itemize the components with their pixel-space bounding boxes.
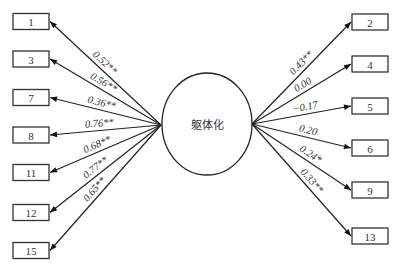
item-node-15: 15: [13, 243, 49, 259]
item-node-1: 1: [13, 14, 49, 30]
path-arrow-1: [50, 22, 161, 126]
item-node-9: 9: [352, 182, 388, 198]
item-node-3: 3: [13, 51, 49, 67]
item-label: 7: [28, 92, 34, 104]
item-label: 15: [26, 245, 38, 257]
item-node-13: 13: [352, 228, 388, 244]
path-coefficient-4: 0.00: [292, 75, 314, 94]
latent-label: 躯体化: [191, 118, 224, 132]
item-label: 13: [365, 231, 377, 243]
item-label: 5: [367, 101, 373, 113]
path-coefficient-9: 0.24*: [298, 143, 324, 166]
item-node-6: 6: [352, 140, 388, 156]
path-coefficient-8: 0.76**: [84, 116, 114, 130]
item-node-11: 11: [13, 165, 49, 181]
item-node-4: 4: [352, 56, 388, 72]
path-diagram: 0.52**0.56**0.36**0.76**0.68**0.77**0.65…: [0, 0, 397, 269]
item-label: 4: [367, 59, 373, 71]
item-label: 3: [28, 54, 34, 66]
item-label: 6: [367, 143, 373, 155]
item-node-12: 12: [13, 205, 49, 221]
item-label: 1: [28, 16, 34, 28]
item-label: 8: [28, 130, 34, 142]
item-node-5: 5: [352, 98, 388, 114]
item-label: 11: [26, 167, 37, 179]
item-label: 2: [367, 17, 373, 29]
item-label: 9: [367, 185, 373, 197]
item-node-7: 7: [13, 90, 49, 106]
item-node-8: 8: [13, 127, 49, 143]
latent-factor: 躯体化: [162, 73, 252, 175]
item-node-2: 2: [352, 14, 388, 30]
item-label: 12: [26, 207, 37, 219]
